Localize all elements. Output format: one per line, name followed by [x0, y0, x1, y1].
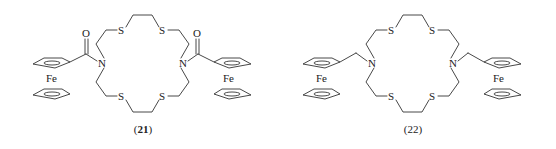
- compound-22: N N S S S S Fe Fe: [303, 15, 521, 136]
- carbonyl-right: O: [188, 27, 214, 62]
- iron-atom-right: Fe: [493, 72, 504, 84]
- sulfur-atom-bottom-left: S: [118, 90, 124, 102]
- sulfur-atom-top-right: S: [159, 24, 165, 36]
- nitrogen-atom-right: N: [179, 57, 187, 69]
- cyclopentadienyl-ring-lower: [33, 89, 70, 99]
- compound-21: N N S S S S O O Fe: [33, 15, 251, 136]
- cyclopentadienyl-ring-upper: [33, 58, 70, 68]
- cyclopentadienyl-ring-upper: [214, 58, 251, 68]
- compound-label-21: (21): [134, 123, 153, 136]
- sulfur-atom-top-right: S: [429, 24, 435, 36]
- iron-atom-left: Fe: [46, 72, 57, 84]
- methylene-linker-left: [340, 53, 367, 62]
- ferrocene-left: Fe: [33, 58, 70, 99]
- compound-label-22: (22): [404, 123, 423, 136]
- cyclopentadienyl-ring-lower: [303, 89, 340, 99]
- cyclopentadienyl-ring-upper: [303, 58, 340, 68]
- chemical-structures-figure: N N S S S S O O Fe: [0, 0, 556, 149]
- sulfur-atom-top-left: S: [388, 24, 394, 36]
- cyclopentadienyl-ring-lower: [484, 89, 521, 99]
- nitrogen-atom-right: N: [449, 57, 457, 69]
- iron-atom-right: Fe: [223, 72, 234, 84]
- iron-atom-left: Fe: [316, 72, 327, 84]
- sulfur-atom-bottom-right: S: [159, 90, 165, 102]
- sulfur-atom-bottom-left: S: [388, 90, 394, 102]
- methylene-linker-right: [458, 53, 484, 62]
- ferrocene-left: Fe: [303, 58, 340, 99]
- sulfur-atom-top-left: S: [118, 24, 124, 36]
- ferrocene-right: Fe: [484, 58, 521, 99]
- oxygen-atom-right: O: [193, 27, 201, 39]
- macrocycle-ring-21: [96, 15, 189, 112]
- nitrogen-atom-left: N: [98, 57, 106, 69]
- ferrocene-right: Fe: [214, 58, 251, 99]
- carbonyl-left: O: [70, 27, 97, 62]
- oxygen-atom-left: O: [82, 27, 90, 39]
- cyclopentadienyl-ring-upper: [484, 58, 521, 68]
- nitrogen-atom-left: N: [368, 57, 376, 69]
- sulfur-atom-bottom-right: S: [429, 90, 435, 102]
- macrocycle-ring-22: [366, 15, 459, 112]
- cyclopentadienyl-ring-lower: [214, 89, 251, 99]
